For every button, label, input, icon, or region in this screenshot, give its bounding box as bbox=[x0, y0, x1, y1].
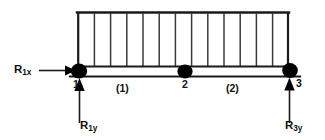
reaction-subscript-R3y: 3y bbox=[293, 124, 302, 133]
element-label-1: (1) bbox=[116, 83, 129, 94]
node-label-3: 3 bbox=[296, 78, 302, 89]
element-label-2: (2) bbox=[226, 83, 239, 94]
R3y-arrow-head bbox=[284, 78, 294, 91]
reaction-subscript-R1y: 1y bbox=[88, 124, 97, 133]
node-3-marker bbox=[282, 63, 298, 78]
node-label-2: 2 bbox=[182, 79, 188, 90]
reaction-subscript-R1x: 1x bbox=[22, 68, 31, 77]
reaction-label-R1x: R1x bbox=[14, 64, 31, 76]
node-2-marker bbox=[177, 65, 192, 79]
reaction-R1x-arrow bbox=[39, 66, 76, 76]
distributed-load-region bbox=[77, 12, 289, 67]
beam-diagram-figure: R1x R1y R3y 1 2 3 (1) (2) bbox=[0, 0, 325, 140]
node-label-1: 1 bbox=[73, 79, 79, 90]
reaction-label-R1y: R1y bbox=[80, 120, 97, 132]
reaction-R3y-arrow bbox=[284, 78, 294, 124]
diagram-canvas bbox=[0, 0, 325, 140]
reaction-label-R3y: R3y bbox=[285, 120, 302, 132]
